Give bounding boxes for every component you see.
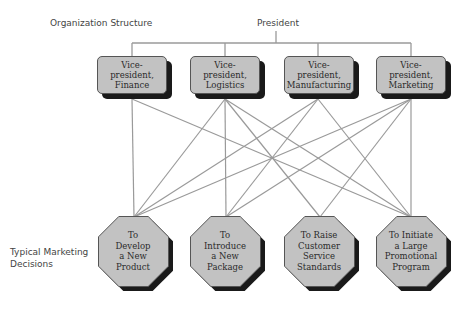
vp-box-logistics: Vice-president,Logistics <box>190 56 260 94</box>
decision-octagon-raise: To RaiseCustomerServiceStandards <box>284 216 360 292</box>
decision-label: ToIntroducea NewPackage <box>190 216 260 286</box>
vp-label-line: Logistics <box>206 80 245 90</box>
decision-label-line: Product <box>116 262 150 273</box>
vp-label-line: Vice- <box>121 60 142 70</box>
vp-label-line: Vice- <box>308 60 329 70</box>
decision-label: To RaiseCustomerServiceStandards <box>284 216 354 286</box>
vp-label-line: president, <box>110 70 154 80</box>
vp-label-line: Vice- <box>214 60 235 70</box>
vp-box-face: Vice-president,Logistics <box>190 56 260 94</box>
vp-label-line: president, <box>203 70 247 80</box>
decision-label-line: Promotional <box>385 251 438 262</box>
decision-octagon-develop: ToDevelopa NewProduct <box>98 216 174 292</box>
connection-logistics-develop <box>134 99 225 217</box>
decision-octagon-initiate: To Initiatea LargePromotionalProgram <box>376 216 452 292</box>
decision-label-line: a New <box>211 251 239 262</box>
vp-label-line: president, <box>389 70 433 80</box>
vp-label-line: Finance <box>115 80 149 90</box>
decision-label: To Initiatea LargePromotionalProgram <box>376 216 446 286</box>
vp-box-face: Vice-president,Manufacturing <box>284 56 354 94</box>
vp-box-face: Vice-president,Marketing <box>376 56 446 94</box>
decision-octagon-introduce: ToIntroducea NewPackage <box>190 216 266 292</box>
decision-label-line: Develop <box>116 241 151 252</box>
decision-label-line: Service <box>303 251 335 262</box>
decision-label-line: Program <box>392 262 430 273</box>
decision-label-line: a Large <box>394 241 427 252</box>
decision-label-line: To Initiate <box>389 230 433 241</box>
decision-label-line: Introduce <box>204 241 246 252</box>
decision-label: ToDevelopa NewProduct <box>98 216 168 286</box>
vp-label-line: president, <box>297 70 341 80</box>
decision-label-line: To Raise <box>301 230 338 241</box>
decision-label-line: Customer <box>298 241 340 252</box>
vp-box-finance: Vice-president,Finance <box>97 56 167 94</box>
vp-label-line: Manufacturing <box>287 80 351 90</box>
vp-box-face: Vice-president,Finance <box>97 56 167 94</box>
vp-box-marketing: Vice-president,Marketing <box>376 56 446 94</box>
decision-label-line: Standards <box>297 262 341 273</box>
decision-label-line: To <box>220 230 230 241</box>
vp-label-line: Marketing <box>388 80 433 90</box>
decision-label-line: a New <box>119 251 147 262</box>
decision-label-line: Package <box>207 262 243 273</box>
vp-box-manufacturing: Vice-president,Manufacturing <box>284 56 354 94</box>
connection-finance-develop <box>132 99 134 217</box>
vp-label-line: Vice- <box>400 60 421 70</box>
decision-label-line: To <box>128 230 138 241</box>
